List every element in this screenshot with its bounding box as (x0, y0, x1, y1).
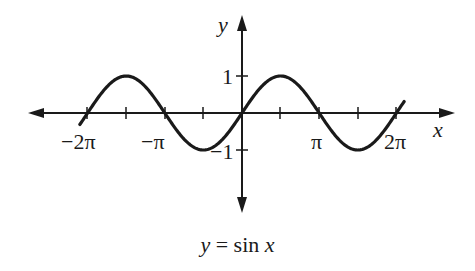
caption-equals-sin: = sin (210, 232, 265, 257)
x-tick-label-2pi: 2π (384, 131, 406, 153)
x-tick-label-neg-2pi: −2π (61, 131, 96, 153)
y-axis-up-arrow-icon (237, 15, 247, 31)
chart-caption: y = sin x (0, 232, 475, 258)
caption-y: y (200, 232, 210, 257)
x-axis-label: x (433, 119, 443, 141)
y-axis-down-arrow-icon (237, 197, 247, 213)
y-tick-label-1: 1 (222, 66, 233, 88)
x-tick-label-pi: π (311, 131, 322, 153)
x-axis-left-arrow-icon (28, 108, 44, 118)
y-axis-label: y (218, 14, 228, 36)
caption-x: x (265, 232, 275, 257)
y-tick-label-neg-1: −1 (210, 141, 233, 163)
x-tick-label-neg-pi: −π (141, 131, 165, 153)
